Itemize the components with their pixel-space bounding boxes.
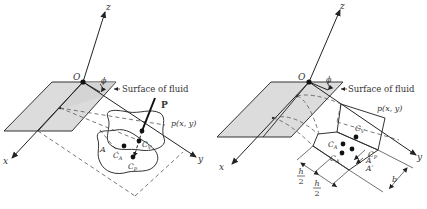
x-axis-label: x xyxy=(3,156,8,166)
centroid-CA-label: CA xyxy=(113,151,123,161)
svg-text:h: h xyxy=(314,179,319,188)
z-axis xyxy=(83,12,105,82)
svg-text:2: 2 xyxy=(314,189,319,198)
diagram-arbitrary-plane-svg: z x y O ϕ Surface of fluid P p(x, y) A C… xyxy=(0,0,213,209)
fluid-surface-plane xyxy=(217,82,343,137)
pressure-label: p(x, y) xyxy=(377,104,402,113)
angle-phi-label: ϕ xyxy=(326,75,332,84)
y-axis-label: y xyxy=(416,152,423,162)
pressure-label: p(x, y) xyxy=(171,119,196,128)
area-A-label: A xyxy=(99,145,106,154)
center-volume-CV-point xyxy=(137,139,142,144)
centroid-CA-point xyxy=(122,144,127,149)
y-axis-label: y xyxy=(197,154,204,164)
origin-label: O xyxy=(73,72,81,82)
surface-of-fluid-label: Surface of fluid xyxy=(122,84,189,94)
area-A-prime-label: A′ xyxy=(365,164,373,173)
svg-text:2: 2 xyxy=(298,177,303,186)
pressure-prism xyxy=(313,104,385,170)
center-volume-CV-label: CV xyxy=(142,140,153,150)
half-height-dimension-2: h 2 xyxy=(313,179,321,198)
half-height-dimension-1: h 2 xyxy=(297,167,305,186)
figure-rectangular-plane: z x y O ϕ Surface of fluid p(x, y) CV CA… xyxy=(213,0,427,209)
centroid-CA-point xyxy=(341,142,346,147)
figure-arbitrary-plane: z x y O ϕ Surface of fluid P p(x, y) A C… xyxy=(0,0,213,209)
diagram-rectangular-plane-svg: z x y O ϕ Surface of fluid p(x, y) CV CA… xyxy=(213,0,427,209)
x-axis-label: x xyxy=(219,162,224,172)
center-volume-CV-point xyxy=(354,135,359,140)
z-axis-label: z xyxy=(339,1,345,11)
centroid-CA-prime-label: CA′ xyxy=(330,154,341,164)
force-P-label: P xyxy=(161,100,168,110)
z-axis-label: z xyxy=(105,2,111,12)
center-of-volume-point xyxy=(140,129,145,134)
center-volume-CV-label: CV xyxy=(355,124,366,134)
center-pressure-CP-point xyxy=(131,155,136,160)
svg-text:h: h xyxy=(298,167,303,176)
origin-point xyxy=(80,79,85,84)
angle-phi-label: ϕ xyxy=(101,76,107,85)
centroid-CA-label: CA xyxy=(328,140,338,150)
width-b-label: b xyxy=(392,175,397,184)
surface-of-fluid-label: Surface of fluid xyxy=(348,84,415,94)
origin-label: O xyxy=(298,72,306,82)
origin-point xyxy=(306,79,311,84)
center-pressure-CP-point xyxy=(350,147,355,152)
z-axis xyxy=(309,10,340,82)
center-pressure-CP-label: CP xyxy=(128,162,138,172)
